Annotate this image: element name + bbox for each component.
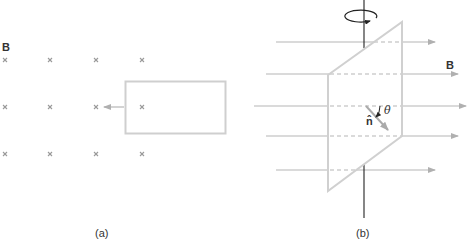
rectangular-loop	[126, 82, 226, 134]
cross-icon	[48, 58, 52, 62]
vector-arrow-icon: →	[3, 37, 10, 48]
figure-canvas	[0, 0, 469, 242]
induction-figure: → B → B n̂ θ (a) (b)	[0, 0, 469, 242]
panel-a	[3, 58, 226, 156]
panel-b	[254, 0, 466, 218]
cross-icon	[3, 58, 7, 62]
cross-icon	[48, 152, 52, 156]
cross-icon	[140, 105, 144, 109]
cross-icon	[94, 58, 98, 62]
cross-icon	[94, 105, 98, 109]
rotation-arrow-icon	[345, 10, 377, 22]
cross-icon	[140, 152, 144, 156]
cross-icon	[94, 152, 98, 156]
vector-arrow-icon: →	[447, 55, 454, 66]
caption-a: (a)	[95, 227, 108, 239]
cross-icon	[3, 152, 7, 156]
cross-icon	[3, 105, 7, 109]
caption-b: (b)	[356, 227, 369, 239]
cross-icon	[140, 58, 144, 62]
normal-label: n̂	[366, 115, 373, 127]
cross-icon	[48, 105, 52, 109]
angle-label: θ	[384, 104, 391, 117]
field-label-b: → B	[446, 60, 454, 71]
field-label-a: → B	[2, 42, 10, 53]
